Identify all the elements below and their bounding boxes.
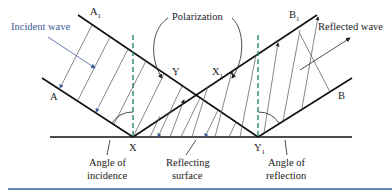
incident-ray-lines (60, 25, 236, 137)
label-angle-of-reflection-1: Angle of (268, 157, 306, 168)
label-reflecting-surface-1: Reflecting (166, 157, 210, 168)
polarization-pointer-left (154, 18, 168, 78)
label-y: Y (172, 66, 180, 77)
label-b1: B1 (289, 9, 300, 23)
label-angle-of-incidence-1: Angle of (89, 157, 127, 168)
reflected-wave-direction-arrow (300, 38, 350, 70)
reflected-ray-lines (150, 17, 330, 137)
label-incident-wave: Incident wave (11, 21, 71, 32)
label-a1: A1 (90, 6, 102, 20)
reflecting-surface-leader (186, 140, 196, 155)
reflected-wavefront-b (258, 78, 352, 137)
label-reflecting-surface-2: surface (172, 170, 203, 181)
reflection-diagram: Incident wave Reflected wave Polarizatio… (0, 0, 392, 194)
label-x1: X1 (212, 66, 224, 80)
label-a: A (50, 91, 58, 102)
label-b: B (338, 90, 345, 101)
polarization-pointer-right (232, 18, 242, 78)
angle-of-incidence-leader (107, 140, 110, 155)
angle-of-reflection-arc (258, 112, 279, 123)
label-angle-of-reflection-2: reflection (266, 170, 307, 181)
label-y1: Y1 (254, 142, 266, 156)
incident-wave-pointer (48, 37, 95, 68)
angle-of-reflection-leader (285, 140, 287, 155)
incident-wavefront-a (42, 78, 133, 137)
label-angle-of-incidence-2: incidence (87, 170, 128, 181)
label-polarization: Polarization (172, 11, 223, 22)
label-x: X (129, 142, 137, 153)
label-reflected-wave: Reflected wave (318, 21, 383, 32)
